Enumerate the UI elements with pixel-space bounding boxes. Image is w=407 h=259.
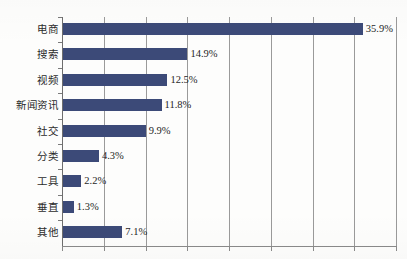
bar-row: 工具2.2% xyxy=(0,169,407,194)
category-label: 其他 xyxy=(0,220,58,245)
category-label: 垂直 xyxy=(0,195,58,220)
value-label: 12.5% xyxy=(170,71,197,89)
category-label: 社交 xyxy=(0,119,58,144)
y-tick xyxy=(58,17,62,18)
x-tick-0 xyxy=(62,247,63,251)
value-label: 35.9% xyxy=(366,20,393,38)
x-tick-30 xyxy=(313,247,314,251)
x-axis-baseline xyxy=(62,246,397,247)
bar-row: 社交9.9% xyxy=(0,119,407,144)
bar xyxy=(63,48,187,60)
x-tick-15 xyxy=(187,247,188,251)
y-tick xyxy=(58,220,62,221)
bar xyxy=(63,99,162,111)
x-tick-25 xyxy=(271,247,272,251)
bar-row: 搜索14.9% xyxy=(0,42,407,67)
bar xyxy=(63,226,122,238)
bar xyxy=(63,150,99,162)
bar-row: 电商35.9% xyxy=(0,17,407,42)
y-tick xyxy=(58,144,62,145)
value-label: 1.3% xyxy=(77,198,99,216)
x-tick-20 xyxy=(229,247,230,251)
bar-row: 新闻资讯11.8% xyxy=(0,93,407,118)
bar xyxy=(63,201,74,213)
category-label: 分类 xyxy=(0,144,58,169)
bar-row: 视频12.5% xyxy=(0,68,407,93)
bar xyxy=(63,74,167,86)
value-label: 11.8% xyxy=(165,96,192,114)
value-label: 2.2% xyxy=(84,172,106,190)
bar-chart: 电商35.9%搜索14.9%视频12.5%新闻资讯11.8%社交9.9%分类4.… xyxy=(0,0,407,259)
x-tick-5 xyxy=(104,247,105,251)
y-tick xyxy=(58,93,62,94)
bar xyxy=(63,125,146,137)
y-tick xyxy=(58,195,62,196)
y-tick xyxy=(58,119,62,120)
y-tick xyxy=(58,42,62,43)
bar xyxy=(63,23,363,35)
value-label: 4.3% xyxy=(102,147,124,165)
y-tick xyxy=(58,68,62,69)
value-label: 9.9% xyxy=(149,122,171,140)
category-label: 视频 xyxy=(0,68,58,93)
category-label: 工具 xyxy=(0,169,58,194)
category-label: 新闻资讯 xyxy=(0,93,58,118)
bar-row: 其他7.1% xyxy=(0,220,407,245)
value-label: 14.9% xyxy=(190,45,217,63)
bar xyxy=(63,175,81,187)
x-tick-40 xyxy=(396,247,397,251)
category-label: 电商 xyxy=(0,17,58,42)
bar-row: 分类4.3% xyxy=(0,144,407,169)
x-tick-35 xyxy=(354,247,355,251)
value-label: 7.1% xyxy=(125,223,147,241)
bar-row: 垂直1.3% xyxy=(0,195,407,220)
x-tick-10 xyxy=(146,247,147,251)
y-tick xyxy=(58,169,62,170)
category-label: 搜索 xyxy=(0,42,58,67)
